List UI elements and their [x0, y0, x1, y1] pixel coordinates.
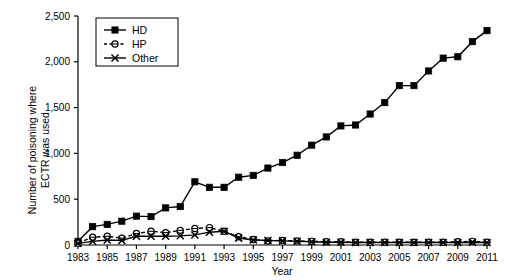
marker-filled-square: [177, 203, 183, 209]
x-tick-label: 1987: [125, 252, 148, 263]
y-tick-label: 0: [64, 240, 70, 251]
marker-filled-square: [90, 224, 96, 230]
x-tick-label: 1995: [242, 252, 265, 263]
marker-filled-square: [309, 142, 315, 148]
chart-container: 05001,0001,5002,0002,500 198319851987198…: [0, 0, 514, 280]
marker-filled-square: [221, 184, 227, 190]
marker-filled-square: [396, 83, 402, 89]
x-tick-label: 1993: [213, 252, 236, 263]
marker-filled-square: [455, 54, 461, 60]
line-chart: 05001,0001,5002,0002,500 198319851987198…: [0, 0, 514, 280]
x-axis-ticks: 1983198519871989199119931995199719992001…: [67, 245, 498, 263]
x-axis-title: Year: [271, 265, 293, 277]
x-tick-label: 1991: [184, 252, 207, 263]
x-tick-label: 1997: [271, 252, 294, 263]
marker-filled-square: [440, 55, 446, 61]
y-tick-label: 1,500: [45, 102, 70, 113]
x-tick-label: 1985: [96, 252, 119, 263]
marker-filled-square: [352, 122, 358, 128]
marker-filled-square: [133, 213, 139, 219]
marker-filled-square: [119, 218, 125, 224]
y-tick-label: 2,000: [45, 56, 70, 67]
marker-filled-square: [104, 221, 110, 227]
legend: HDHPOther: [96, 18, 178, 66]
x-tick-label: 2011: [476, 252, 498, 263]
x-tick-label: 1999: [301, 252, 324, 263]
marker-filled-square: [250, 172, 256, 178]
legend-label-hp: HP: [132, 38, 147, 50]
marker-filled-square: [192, 179, 198, 185]
x-tick-label: 2007: [417, 252, 440, 263]
x-tick-label: 2009: [447, 252, 470, 263]
marker-filled-square: [265, 165, 271, 171]
marker-filled-square: [206, 184, 212, 190]
x-tick-label: 2003: [359, 252, 382, 263]
x-tick-label: 1989: [155, 252, 178, 263]
marker-filled-square: [338, 123, 344, 129]
legend-label-other: Other: [132, 52, 159, 64]
y-axis-title-line2: ECTR was used: [39, 112, 51, 188]
marker-filled-square: [323, 134, 329, 140]
x-tick-label: 2001: [330, 252, 353, 263]
marker-filled-square: [163, 205, 169, 211]
marker-filled-square: [425, 68, 431, 74]
marker-filled-square: [382, 99, 388, 105]
marker-filled-square: [411, 83, 417, 89]
y-axis-title-line1: Number of poisoning where: [26, 86, 38, 215]
marker-filled-square: [279, 159, 285, 165]
marker-filled-square: [484, 28, 490, 34]
y-tick-label: 2,500: [45, 11, 70, 22]
marker-filled-square: [294, 152, 300, 158]
marker-filled-square: [236, 174, 242, 180]
marker-filled-square: [148, 214, 154, 220]
legend-label-hd: HD: [132, 24, 148, 36]
x-tick-label: 1983: [67, 252, 90, 263]
y-tick-label: 500: [53, 194, 70, 205]
marker-filled-square: [469, 39, 475, 45]
marker-filled-square: [112, 27, 118, 33]
x-tick-label: 2005: [388, 252, 411, 263]
marker-filled-square: [367, 111, 373, 117]
